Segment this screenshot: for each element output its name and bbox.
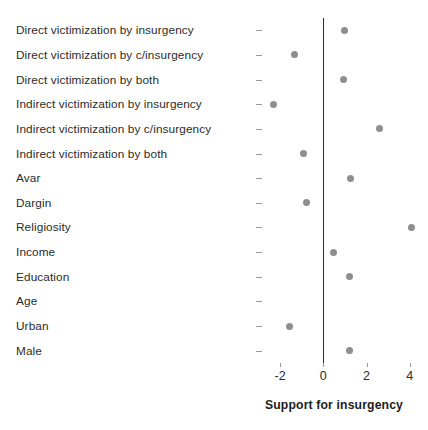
- y-axis-tick: [256, 154, 262, 155]
- y-axis-category-labels: Direct victimization by insurgencyDirect…: [0, 0, 252, 365]
- row-label: Indirect victimization by insurgency: [0, 96, 252, 112]
- x-axis-tick-label: 0: [320, 369, 327, 383]
- row-label: Direct victimization by insurgency: [0, 22, 252, 38]
- x-axis-tick-label: 4: [406, 369, 413, 383]
- row-label: Urban: [0, 318, 252, 334]
- row-label: Indirect victimization by c/insurgency: [0, 121, 252, 137]
- row-label: Direct victimization by c/insurgency: [0, 47, 252, 63]
- x-axis-tick-label: 2: [363, 369, 370, 383]
- data-point: [340, 76, 347, 83]
- y-axis-tick: [256, 252, 262, 253]
- data-point: [291, 51, 298, 58]
- y-axis-tick: [256, 129, 262, 130]
- x-axis: -2024: [264, 363, 428, 393]
- row-label: Male: [0, 343, 252, 359]
- y-axis-tick: [256, 30, 262, 31]
- row-label: Income: [0, 244, 252, 260]
- y-axis-tick: [256, 326, 262, 327]
- data-point: [408, 224, 415, 231]
- zero-reference-line: [323, 18, 324, 363]
- coefficient-dot-plot: Direct victimization by insurgencyDirect…: [0, 0, 428, 430]
- row-label: Age: [0, 293, 252, 309]
- data-point: [303, 199, 310, 206]
- data-point: [270, 101, 277, 108]
- x-axis-tick: [323, 363, 324, 367]
- x-axis-tick: [367, 363, 368, 367]
- plot-panel: [264, 18, 428, 363]
- y-axis-tick: [256, 203, 262, 204]
- row-label: Indirect victimization by both: [0, 146, 252, 162]
- y-axis-tick: [256, 277, 262, 278]
- y-axis-tick: [256, 178, 262, 179]
- y-axis-tick: [256, 351, 262, 352]
- y-axis-tick: [256, 55, 262, 56]
- x-axis-title: Support for insurgency: [240, 398, 428, 412]
- row-label: Direct victimization by both: [0, 72, 252, 88]
- row-label: Avar: [0, 170, 252, 186]
- y-axis-tick: [256, 104, 262, 105]
- x-axis-tick: [280, 363, 281, 367]
- data-point: [346, 347, 353, 354]
- row-label: Dargin: [0, 195, 252, 211]
- data-point: [347, 175, 354, 182]
- data-point: [330, 249, 337, 256]
- data-point: [376, 125, 383, 132]
- y-axis-tick: [256, 301, 262, 302]
- x-axis-tick: [410, 363, 411, 367]
- x-axis-tick-label: -2: [275, 369, 286, 383]
- row-label: Religiosity: [0, 219, 252, 235]
- row-label: Education: [0, 269, 252, 285]
- y-axis-tick: [256, 227, 262, 228]
- data-point: [286, 323, 293, 330]
- data-point: [300, 150, 307, 157]
- data-point: [341, 27, 348, 34]
- y-axis-tick: [256, 80, 262, 81]
- data-point: [346, 273, 353, 280]
